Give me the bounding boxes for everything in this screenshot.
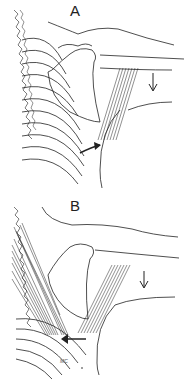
- panel-a: A: [0, 0, 186, 195]
- arrow-down-icon-b: [140, 271, 148, 288]
- arrow-curved-icon-a: [80, 142, 101, 153]
- shoulder-illustration-a: [0, 0, 186, 195]
- arrow-down-icon-a: [149, 73, 157, 91]
- panel-b: B: [0, 195, 186, 389]
- shoulder-illustration-b: [0, 195, 186, 389]
- arrow-left-icon-b: [61, 334, 86, 344]
- artist-signature: MC: [60, 358, 68, 364]
